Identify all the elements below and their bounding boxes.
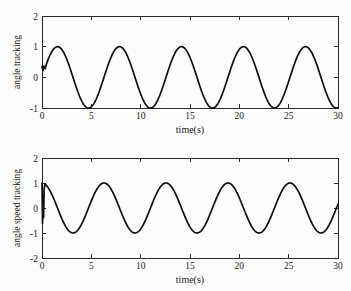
x-tick-label: 0	[40, 111, 45, 121]
data-series-angle-speed-tracking	[42, 183, 338, 233]
x-tick-label: 30	[333, 111, 343, 121]
y-tick-label: 0	[33, 73, 38, 83]
x-tick-label: 10	[136, 111, 146, 121]
x-tick-label: 15	[185, 261, 195, 271]
data-series-angle-tracking	[42, 47, 338, 108]
y-tick-label: -2	[30, 254, 38, 264]
y-tick-label: 1	[33, 179, 38, 189]
figure-canvas: 051015202530-1012time(s)angle tracking 0…	[0, 0, 351, 291]
x-tick-label: 15	[185, 111, 195, 121]
y-tick-label: -1	[30, 229, 38, 239]
plot-frame	[42, 158, 338, 258]
y-tick-label: 2	[33, 154, 38, 164]
x-tick-label: 30	[333, 261, 343, 271]
x-tick-label: 5	[89, 261, 94, 271]
angle-tracking-plot: 051015202530-1012time(s)angle tracking	[0, 0, 351, 145]
x-tick-label: 25	[284, 261, 294, 271]
plot-frame	[42, 16, 338, 108]
angle-speed-tracking-plot: 051015202530-2-1012time(s)angle speed tr…	[0, 145, 351, 291]
x-tick-label: 20	[235, 261, 245, 271]
x-tick-label: 20	[235, 111, 245, 121]
x-axis-title: time(s)	[176, 274, 204, 286]
x-tick-label: 10	[136, 261, 146, 271]
x-axis-title: time(s)	[176, 124, 204, 136]
y-tick-label: -1	[30, 104, 38, 114]
x-tick-label: 5	[89, 111, 94, 121]
y-tick-label: 2	[33, 12, 38, 22]
x-tick-label: 25	[284, 111, 294, 121]
y-axis-title: angle speed tracking	[12, 169, 22, 247]
y-tick-label: 1	[33, 42, 38, 52]
chart-panel-angle-tracking: 051015202530-1012time(s)angle tracking	[0, 0, 351, 145]
x-tick-label: 0	[40, 261, 45, 271]
y-axis-title: angle tracking	[12, 35, 22, 89]
y-tick-label: 0	[33, 204, 38, 214]
chart-panel-angle-speed-tracking: 051015202530-2-1012time(s)angle speed tr…	[0, 145, 351, 291]
